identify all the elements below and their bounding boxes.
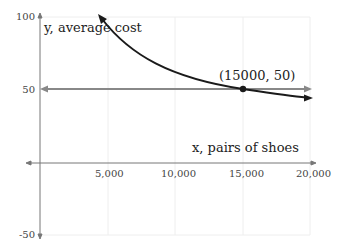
right-arrow-icon <box>304 86 312 93</box>
x-tick-10000: 10,000 <box>161 168 196 179</box>
x-tick-20000: 20,000 <box>296 168 331 179</box>
y-axis-down-arrow-icon <box>38 234 42 239</box>
y-tick-neg50: -50 <box>19 229 35 240</box>
y-tick-100: 100 <box>16 11 35 22</box>
x-axis-right-arrow-icon <box>311 161 316 165</box>
y-axis-up-arrow-icon <box>38 13 42 18</box>
point-annotation: (15000, 50) <box>219 68 295 83</box>
axes <box>26 13 316 239</box>
intersection-point <box>240 86 246 92</box>
x-axis-label: x, pairs of shoes <box>192 140 299 155</box>
left-arrow-icon <box>40 86 48 93</box>
asymptote-line <box>40 86 312 93</box>
x-tick-15000: 15,000 <box>229 168 264 179</box>
grid <box>40 17 310 235</box>
x-tick-5000: 5,000 <box>95 168 124 179</box>
chart: (15000, 50) y, average cost x, pairs of … <box>0 0 345 251</box>
y-tick-50: 50 <box>22 84 35 95</box>
x-axis-left-arrow-icon <box>26 161 31 165</box>
y-axis-label: y, average cost <box>43 20 143 35</box>
curve-end-arrow-icon <box>304 95 313 102</box>
